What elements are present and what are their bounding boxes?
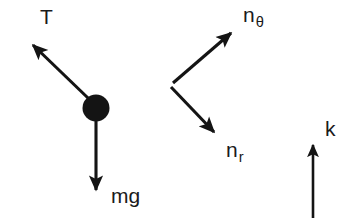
unit-r-base: n: [226, 138, 238, 161]
tension-arrow: [33, 45, 88, 98]
tension-label: T: [40, 6, 53, 27]
unit-k-label: k: [325, 118, 336, 139]
unit-r-label: nr: [226, 139, 244, 165]
unit-r-subscript: r: [239, 149, 244, 165]
particle-bob: [83, 95, 110, 122]
unit-theta-base: n: [243, 3, 255, 26]
unit-theta-subscript: θ: [256, 14, 264, 30]
unit-r-arrow: [171, 87, 214, 132]
diagram-canvas: [0, 0, 353, 223]
unit-theta-arrow: [173, 33, 231, 83]
free-body-diagram: T mg nθ nr k: [0, 0, 353, 223]
weight-label: mg: [111, 185, 140, 206]
unit-theta-label: nθ: [243, 4, 264, 30]
